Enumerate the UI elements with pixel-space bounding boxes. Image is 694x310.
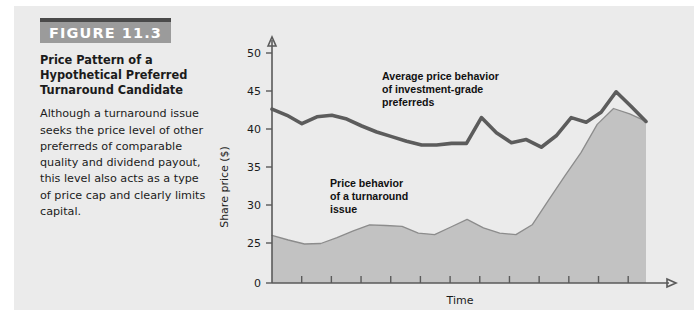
y-tick-label: 0 (254, 277, 261, 290)
chart-svg: 0253035404550 Share price ($) Time Avera… (210, 12, 694, 310)
x-axis-title: Time (446, 294, 474, 307)
y-tick-label: 30 (247, 199, 261, 212)
figure-number-badge: FIGURE 11.3 (40, 18, 171, 43)
average-price-annotation: Average price behaviorof investment-grad… (382, 70, 499, 108)
figure-page: FIGURE 11.3 Price Pattern of a Hypotheti… (0, 0, 694, 310)
figure-title: Price Pattern of a Hypothetical Preferre… (40, 53, 200, 98)
turnaround-annotation: Price behaviorof a turnaroundissue (330, 177, 408, 215)
annotation-line: Price behavior (330, 177, 403, 189)
turnaround-issue-area (272, 109, 646, 284)
annotation-line: preferreds (382, 96, 435, 108)
annotation-line: issue (330, 203, 357, 215)
figure-panel: FIGURE 11.3 Price Pattern of a Hypotheti… (14, 6, 694, 310)
y-tick-label: 40 (247, 123, 261, 136)
y-tick-label: 50 (247, 47, 261, 60)
y-tick-label: 25 (247, 237, 261, 250)
figure-caption-text: Although a turnaround issue seeks the pr… (40, 106, 208, 220)
y-tick-label: 45 (247, 85, 261, 98)
y-tick-label: 35 (247, 161, 261, 174)
y-axis: 0253035404550 (247, 37, 276, 290)
annotation-line: of investment-grade (382, 83, 483, 95)
caption-column: FIGURE 11.3 Price Pattern of a Hypotheti… (40, 18, 208, 220)
figure-number-label: FIGURE 11.3 (49, 25, 162, 41)
annotation-line: of a turnaround (330, 190, 408, 202)
plot-series-group (272, 92, 646, 283)
chart-canvas: 0253035404550 Share price ($) Time Avera… (210, 12, 694, 310)
y-axis-title: Share price ($) (218, 146, 231, 228)
annotation-line: Average price behavior (382, 70, 499, 82)
